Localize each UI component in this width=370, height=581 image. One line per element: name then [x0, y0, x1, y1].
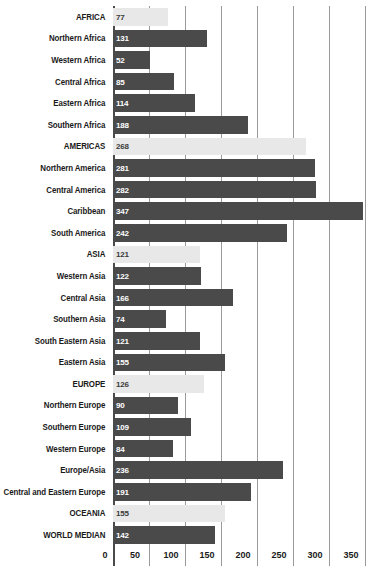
bar-value-label: 52 — [116, 55, 125, 64]
category-label: Eastern Asia — [8, 352, 109, 374]
bar: 142 — [113, 526, 215, 544]
bar: 282 — [113, 181, 316, 199]
bar-value-label: 188 — [116, 120, 129, 129]
bar: 121 — [113, 332, 200, 350]
x-tick-label-200: 200 — [235, 550, 250, 560]
bar-value-label: 142 — [116, 531, 129, 540]
bar-value-label: 131 — [116, 34, 129, 43]
bar-value-label: 109 — [116, 423, 129, 432]
bar: 74 — [113, 310, 166, 328]
bar-row: 166 — [113, 287, 365, 309]
bar-value-label: 281 — [116, 163, 129, 172]
bar-row: 77 — [113, 6, 365, 28]
x-tick-line-50 — [149, 546, 150, 566]
bar-row: 74 — [113, 308, 365, 330]
bar: 155 — [113, 505, 225, 523]
bar: 85 — [113, 73, 174, 91]
bar-value-label: 74 — [116, 315, 125, 324]
category-label: Western Europe — [8, 438, 109, 460]
bar-row: 347 — [113, 200, 365, 222]
bar-row: 268 — [113, 136, 365, 158]
x-tick-label-50: 50 — [130, 550, 140, 560]
bar: 114 — [113, 94, 195, 112]
bar-value-label: 191 — [116, 487, 129, 496]
bar-row: 90 — [113, 395, 365, 417]
category-label: Central America — [8, 179, 109, 201]
x-tick-line-250 — [293, 546, 294, 566]
x-tick-label-350: 350 — [343, 550, 358, 560]
bar: 236 — [113, 461, 283, 479]
bar: 109 — [113, 418, 191, 436]
category-label: Northern Africa — [8, 28, 109, 50]
bar-value-label: 347 — [116, 207, 129, 216]
bar: 52 — [113, 51, 150, 69]
bar: 126 — [113, 375, 204, 393]
x-tick-label-250: 250 — [271, 550, 286, 560]
category-label: ASIA — [8, 244, 109, 266]
bar-value-label: 155 — [116, 509, 129, 518]
category-label: Central Asia — [8, 287, 109, 309]
bar-value-label: 236 — [116, 466, 129, 475]
bar-row: 142 — [113, 524, 365, 546]
bar-chart: AFRICANorthern AfricaWestern AfricaCentr… — [0, 0, 370, 581]
x-tick-line-350 — [365, 546, 366, 566]
bar: 84 — [113, 440, 173, 458]
bar-row: 85 — [113, 71, 365, 93]
category-label: Western Asia — [8, 265, 109, 287]
bar: 268 — [113, 138, 306, 156]
bar: 281 — [113, 159, 315, 177]
category-axis-labels: AFRICANorthern AfricaWestern AfricaCentr… — [0, 6, 109, 546]
bar-row: 188 — [113, 114, 365, 136]
x-tick-label-100: 100 — [163, 550, 178, 560]
x-tick-line-200 — [257, 546, 258, 566]
bar-row: 155 — [113, 352, 365, 374]
bar-row: 121 — [113, 244, 365, 266]
bar-value-label: 166 — [116, 293, 129, 302]
plot-area: 7713152851141882682812823472421211221667… — [113, 6, 365, 546]
category-label: WORLD MEDIAN — [8, 524, 109, 546]
bar-row: 114 — [113, 92, 365, 114]
bar: 347 — [113, 202, 363, 220]
category-label: Northern Europe — [8, 395, 109, 417]
category-label: South Eastern Asia — [8, 330, 109, 352]
bar-value-label: 90 — [116, 401, 125, 410]
category-label: AMERICAS — [8, 136, 109, 158]
bar-value-label: 121 — [116, 250, 129, 259]
bar: 77 — [113, 8, 168, 26]
bar-value-label: 242 — [116, 228, 129, 237]
bar: 131 — [113, 30, 207, 48]
bar-value-label: 77 — [116, 12, 125, 21]
x-tick-label-0: 0 — [102, 550, 107, 560]
bar-value-label: 122 — [116, 271, 129, 280]
bar-value-label: 84 — [116, 444, 125, 453]
bar-value-label: 126 — [116, 379, 129, 388]
x-tick-line-150 — [221, 546, 222, 566]
category-label: Western Africa — [8, 49, 109, 71]
bar-value-label: 114 — [116, 99, 128, 108]
bar-row: 191 — [113, 481, 365, 503]
gridline-350 — [365, 6, 366, 546]
category-label: Europe/Asia — [8, 459, 109, 481]
category-label: EUROPE — [8, 373, 109, 395]
bar-row: 121 — [113, 330, 365, 352]
bar-row: 109 — [113, 416, 365, 438]
bar: 166 — [113, 289, 233, 307]
bar-row: 281 — [113, 157, 365, 179]
bar-row: 122 — [113, 265, 365, 287]
category-label: AFRICA — [8, 6, 109, 28]
category-label: Central and Eastern Europe — [8, 481, 109, 503]
bar: 191 — [113, 483, 251, 501]
bar: 121 — [113, 246, 200, 264]
bar-row: 84 — [113, 438, 365, 460]
bar-row: 155 — [113, 503, 365, 525]
bar: 242 — [113, 224, 287, 242]
bar-value-label: 121 — [116, 336, 129, 345]
bar-value-label: 268 — [116, 142, 129, 151]
x-tick-label-150: 150 — [199, 550, 214, 560]
x-tick-line-0 — [113, 546, 115, 566]
category-label: Southern Europe — [8, 416, 109, 438]
bar-row: 282 — [113, 179, 365, 201]
x-axis: 050100150200250300350 — [113, 546, 365, 568]
category-label: South America — [8, 222, 109, 244]
bar-row: 236 — [113, 459, 365, 481]
